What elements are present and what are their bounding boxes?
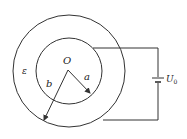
bottom-wire xyxy=(103,83,158,120)
diagram-graphics xyxy=(0,0,187,139)
voltage-label: U0 xyxy=(166,75,177,85)
dielectric-label: ε xyxy=(22,67,27,76)
center-label: O xyxy=(63,56,71,66)
top-wire xyxy=(93,48,158,77)
radius-a-label: a xyxy=(84,72,90,82)
capacitor-diagram: O a b ε U0 xyxy=(0,0,187,139)
voltage-subscript: 0 xyxy=(174,78,178,85)
radius-b-label: b xyxy=(46,79,52,89)
voltage-main: U xyxy=(166,74,174,84)
